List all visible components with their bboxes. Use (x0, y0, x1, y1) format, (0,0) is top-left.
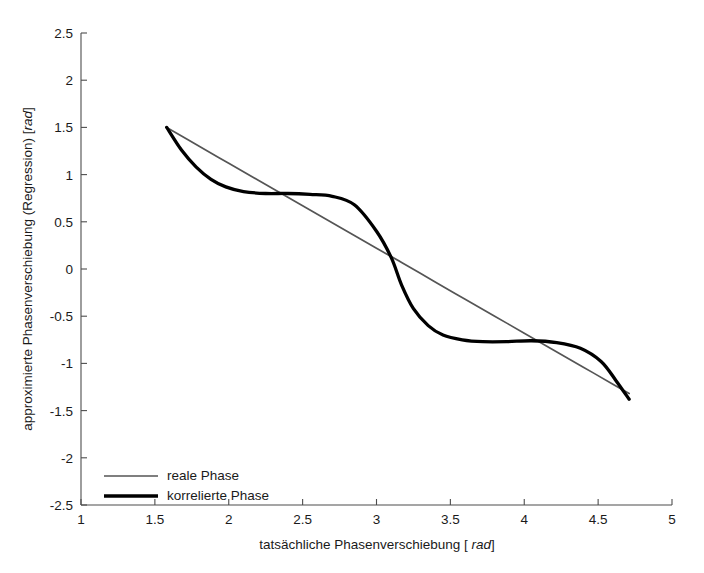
y-tick-label: 1 (65, 168, 73, 183)
x-axis-ticks: 11.522.533.544.55 (77, 499, 676, 527)
x-tick-label: 2.5 (293, 512, 312, 527)
y-tick-label: 0 (65, 262, 73, 277)
x-tick-label: 2 (225, 512, 233, 527)
y-tick-label: 2 (65, 73, 73, 88)
x-axis-title: tatsächliche Phasenverschiebung [ rad] (259, 537, 495, 552)
x-tick-label: 4 (520, 512, 528, 527)
chart-figure: 2.521.510.50-0.5-1-1.5-2-2.5 11.522.533.… (0, 0, 704, 573)
y-tick-label: -0.5 (50, 309, 73, 324)
line-chart-svg: 2.521.510.50-0.5-1-1.5-2-2.5 11.522.533.… (0, 0, 704, 573)
x-tick-label: 1 (77, 512, 85, 527)
y-tick-label: -1.5 (50, 404, 73, 419)
x-tick-label: 1.5 (145, 512, 164, 527)
axes-group (81, 33, 672, 505)
series-line-reale-phase (167, 127, 629, 393)
x-tick-label: 4.5 (589, 512, 608, 527)
y-tick-label: 1.5 (54, 120, 73, 135)
y-tick-label: 2.5 (54, 26, 73, 41)
legend-label-1: korrelierte Phase (167, 488, 269, 503)
y-tick-label: -2 (61, 451, 73, 466)
x-tick-label: 3 (373, 512, 381, 527)
x-tick-label: 3.5 (441, 512, 460, 527)
y-axis-title: approximierte Phasenverschiebung (Regres… (20, 107, 35, 430)
y-tick-label: 0.5 (54, 215, 73, 230)
y-tick-label: -2.5 (50, 498, 73, 513)
y-tick-label: -1 (61, 356, 73, 371)
x-tick-label: 5 (668, 512, 676, 527)
legend-label-0: reale Phase (167, 468, 239, 483)
series-group (167, 127, 629, 399)
chart-legend: reale Phasekorrelierte Phase (104, 468, 269, 503)
